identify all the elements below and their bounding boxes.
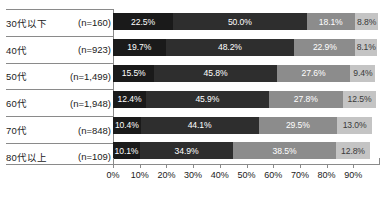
x-axis-tick-label: 80% [318, 170, 336, 180]
category-name: 80代以上 [6, 150, 47, 164]
x-axis-tick [247, 164, 248, 168]
x-axis-tick-label: 70% [291, 170, 309, 180]
bar-segment-value-label: 34.9% [175, 147, 199, 156]
category-name: 30代以下 [6, 16, 47, 30]
x-axis-tick-label: 60% [264, 170, 282, 180]
bar-segment: 9.4% [350, 65, 375, 82]
bar-segment: 10.1% [113, 142, 140, 159]
category-label-inner: 30代以下(n=160) [6, 10, 113, 36]
bar-segment-value-label: 45.9% [195, 95, 219, 104]
bar-segment-value-label: 15.5% [122, 69, 146, 78]
plot-area: 22.5%50.0%18.1%8.8%19.7%48.2%22.9%8.1%15… [113, 9, 380, 164]
category-name: 70代 [6, 123, 27, 137]
bar-row: 10.1%34.9%38.5%12.8% [113, 138, 380, 164]
bar-segment-value-label: 22.9% [313, 43, 337, 52]
bar-row: 15.5%45.8%27.6%9.4% [113, 61, 380, 87]
x-axis-tick [353, 164, 354, 168]
category-label-row: 70代(n=848) [6, 116, 113, 143]
x-axis-tick-label: 30% [184, 170, 202, 180]
bar-segment-value-label: 10.4% [115, 121, 139, 130]
category-sample-size: (n=1,948) [70, 98, 111, 109]
bar-segment: 8.1% [355, 39, 377, 56]
bar-segment-value-label: 44.1% [188, 121, 212, 130]
bar-segment-value-label: 48.2% [218, 43, 242, 52]
bar-segment: 19.7% [113, 39, 166, 56]
x-axis-tick-label: 40% [211, 170, 229, 180]
category-label-inner: 60代(n=1,948) [6, 90, 113, 116]
bar-segment: 48.2% [166, 39, 295, 56]
category-sample-size: (n=160) [78, 17, 111, 28]
bar-segment: 18.1% [307, 13, 355, 30]
x-axis-tick-label: 90% [344, 170, 362, 180]
category-label-row: 30代以下(n=160) [6, 9, 113, 36]
bar-segment: 29.5% [259, 117, 338, 134]
x-axis-tick [327, 164, 328, 168]
stacked-bar: 22.5%50.0%18.1%8.8% [113, 13, 378, 30]
bar-row: 12.4%45.9%27.8%12.5% [113, 86, 380, 112]
bar-segment: 38.5% [233, 142, 336, 159]
stacked-bar: 10.1%34.9%38.5%12.8% [113, 142, 370, 159]
bar-segment: 27.6% [277, 65, 351, 82]
bar-segment: 22.9% [294, 39, 355, 56]
category-sample-size: (n=923) [78, 44, 111, 55]
category-label-column: 30代以下(n=160)40代(n=923)50代(n=1,499)60代(n=… [6, 9, 113, 170]
x-axis-tick-label: 10% [131, 170, 149, 180]
bar-segment-value-label: 45.8% [204, 69, 228, 78]
x-axis-tick [193, 164, 194, 168]
stacked-bar: 10.4%44.1%29.5%13.0% [113, 117, 372, 134]
category-name: 50代 [6, 69, 27, 83]
bar-segment-value-label: 19.7% [127, 43, 151, 52]
bar-segment: 12.8% [336, 142, 370, 159]
bar-segment-value-label: 22.5% [131, 18, 155, 27]
bar-segment-value-label: 12.8% [341, 147, 365, 156]
bar-segment-value-label: 27.8% [294, 95, 318, 104]
bar-segment: 22.5% [113, 13, 173, 30]
bar-segment-value-label: 10.1% [115, 147, 139, 156]
bar-segment-value-label: 38.5% [273, 147, 297, 156]
bar-segment-value-label: 13.0% [343, 121, 367, 130]
bar-segment: 13.0% [337, 117, 372, 134]
x-axis-tick-label: 50% [237, 170, 255, 180]
x-axis-tick [140, 164, 141, 168]
bar-segment: 27.8% [269, 91, 343, 108]
x-axis-tick [273, 164, 274, 168]
stacked-bar: 12.4%45.9%27.8%12.5% [113, 91, 376, 108]
x-axis-tick [300, 164, 301, 168]
bar-segment: 10.4% [113, 117, 141, 134]
label-column-bottom-border [6, 164, 113, 165]
x-axis-tick [113, 164, 114, 168]
bar-segment-value-label: 50.0% [228, 18, 252, 27]
x-axis-tick [166, 164, 167, 168]
category-label-row: 80代以上(n=109) [6, 143, 113, 170]
bar-segment: 50.0% [173, 13, 307, 30]
bar-row: 19.7%48.2%22.9%8.1% [113, 35, 380, 61]
category-label-row: 60代(n=1,948) [6, 89, 113, 116]
bar-segment-value-label: 12.4% [118, 95, 142, 104]
bar-segment-value-label: 8.1% [357, 43, 376, 52]
category-label-row: 50代(n=1,499) [6, 63, 113, 90]
bar-segment: 45.9% [146, 91, 269, 108]
category-name: 40代 [6, 43, 27, 57]
bar-segment-value-label: 12.5% [348, 95, 372, 104]
category-sample-size: (n=109) [78, 151, 111, 162]
category-label-inner: 50代(n=1,499) [6, 64, 113, 90]
stacked-bar: 15.5%45.8%27.6%9.4% [113, 65, 375, 82]
bar-segment-value-label: 18.1% [319, 18, 343, 27]
bar-segment-value-label: 29.5% [286, 121, 310, 130]
stacked-bar: 19.7%48.2%22.9%8.1% [113, 39, 377, 56]
category-label-inner: 40代(n=923) [6, 37, 113, 63]
category-sample-size: (n=1,499) [70, 71, 111, 82]
category-label-inner: 80代以上(n=109) [6, 144, 113, 170]
bar-segment: 15.5% [113, 65, 154, 82]
bar-segment: 44.1% [141, 117, 259, 134]
bar-segment-value-label: 27.6% [302, 69, 326, 78]
bar-row: 10.4%44.1%29.5%13.0% [113, 112, 380, 138]
bar-segment: 34.9% [140, 142, 233, 159]
category-sample-size: (n=848) [78, 125, 111, 136]
bar-segment: 12.5% [343, 91, 376, 108]
x-axis-tick [220, 164, 221, 168]
category-name: 60代 [6, 96, 27, 110]
category-label-inner: 70代(n=848) [6, 117, 113, 143]
stacked-bar-chart: 30代以下(n=160)40代(n=923)50代(n=1,499)60代(n=… [0, 0, 390, 202]
x-axis-tick-label: 20% [157, 170, 175, 180]
